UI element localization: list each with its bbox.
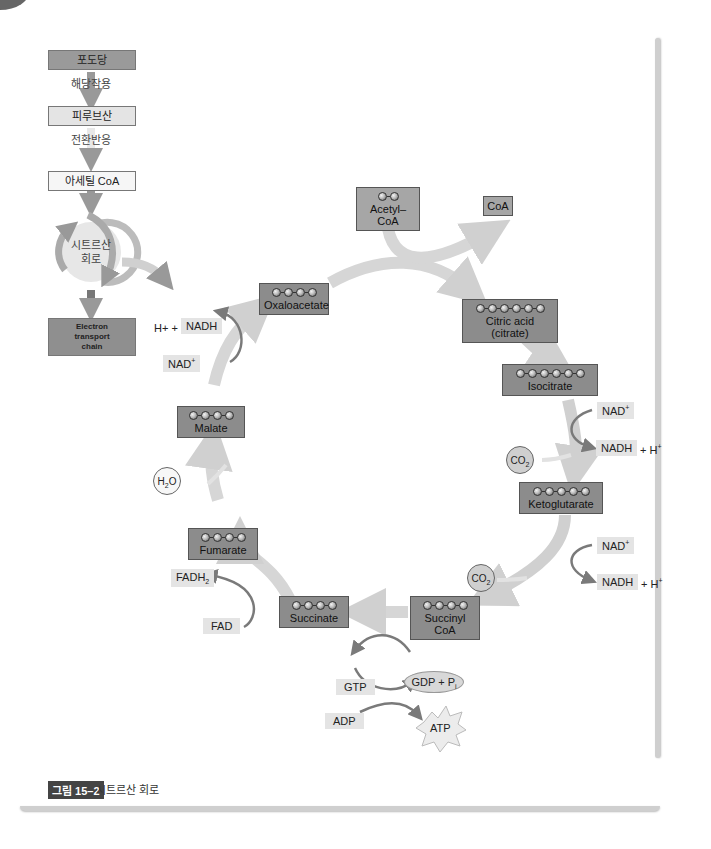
overview-cycle-label: 시트르산 회로 [61,238,121,266]
cofactor-nadh: NADH [596,440,637,456]
molecule-acetyl-coa: Acetyl–CoA [356,187,420,231]
co2-released: CO2 [506,446,534,474]
h2o-input: H2O [153,467,181,495]
molecule-oxaloacetate: Oxaloacetate [259,283,329,315]
h-plus-label: H+ + [154,322,178,334]
overview-acetyl-coa: 아세틸 CoA [48,171,136,191]
molecule-succinate: Succinate [279,596,349,628]
cofactor-nadh: NADH [181,318,222,334]
cofactor-nad-plus: NAD+ [597,537,634,554]
overview-glycolysis-label: 해당작용 [41,75,141,91]
overview-glucose: 포도당 [48,50,136,70]
cofactor-adp: ADP [325,713,364,729]
molecule-malate: Malate [177,406,245,438]
cofactor-nad-plus: NAD+ [597,402,634,419]
molecule-isocitrate: Isocitrate [502,364,598,396]
overview-electron-transport-chain: Electron transport chain [48,318,136,356]
molecule-fumarate: Fumarate [188,528,258,560]
figure-caption: 시트르산 회로 [96,781,159,797]
cofactor-gtp: GTP [336,679,375,695]
molecule-ketoglutarate: Ketoglutarate [519,482,603,514]
released-coa: CoA [483,196,513,216]
atp-label: ATP [430,722,451,734]
co2-released: CO2 [467,564,495,592]
molecule-succinyl-coa: Succinyl CoA [410,596,480,640]
overview-pyruvate: 피루브산 [48,106,136,126]
h-plus-label: + H+ [640,443,662,456]
molecule-citrate: Citric acid (citrate) [462,299,558,343]
cofactor-nad-plus: NAD+ [163,355,200,372]
h-plus-label: + H+ [641,577,663,590]
cofactor-fad: FAD [203,618,240,634]
overview-transition-label: 전환반응 [41,131,141,147]
carbon-chain-2 [361,190,415,202]
cofactor-fadh2: FADH2 [171,569,214,587]
cofactor-gdp-pi: GDP + Pi [404,671,464,693]
cofactor-nadh: NADH [597,574,638,590]
